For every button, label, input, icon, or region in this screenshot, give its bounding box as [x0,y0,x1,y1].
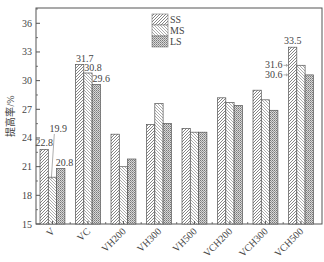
legend-item-ms: MS [152,25,184,36]
legend-label: MS [170,25,184,36]
bar-ss-v [40,150,48,225]
value-label: 19.9 [50,123,68,134]
x-tick-label-vh300: VH300 [135,226,164,255]
bar-ms-vch300 [261,100,269,224]
value-label: 22.8 [35,137,53,148]
bar-ls-vc [92,85,100,225]
bar-ss-vch500 [289,47,297,224]
bar-group-vh300 [147,104,172,224]
bar-ls-vch500 [305,75,313,224]
value-label: 30.6 [265,69,283,80]
bar-ls-vh300 [163,124,171,224]
bar-ss-vh200 [111,134,119,224]
legend-swatch [152,14,168,25]
y-axis-label: 提高率/% [4,95,16,136]
x-tick-label-vch200: VCH200 [201,226,234,259]
legend-item-ss: SS [152,14,181,25]
y-tick-label: 27 [22,104,32,115]
y-tick-label: 36 [22,18,32,29]
y-tick-label: 24 [22,132,32,143]
x-tick-label-vh500: VH500 [170,226,199,255]
bar-group-vch300 [253,90,278,224]
legend-item-ls: LS [152,36,182,47]
y-tick-label: 21 [22,161,32,172]
value-label: 33.5 [284,35,302,46]
bar-ms-vh200 [119,167,127,224]
bar-ms-vh300 [155,104,163,224]
bar-ms-vc [84,73,92,224]
legend: SSMSLS [152,14,184,47]
bar-group-vc [76,64,101,224]
bar-ms-v [48,177,56,224]
value-label: 30.8 [84,62,102,73]
bar-ms-vch200 [226,103,234,224]
bar-group-vh500 [182,128,207,224]
legend-swatch [152,36,168,47]
bar-group-vh200 [111,134,136,224]
value-label: 20.8 [56,157,74,168]
bar-ls-vch200 [234,106,242,225]
value-label: 29.6 [93,73,111,84]
y-tick-label: 33 [22,46,32,57]
x-tick-label-v: V [44,225,57,238]
arrow-icon [284,74,288,76]
arrow-icon [284,64,288,66]
bar-ls-vh500 [199,132,207,224]
x-tick-label-vch500: VCH500 [272,226,305,259]
bar-group-vch200 [218,98,243,224]
bar-ss-vch200 [218,98,226,224]
y-tick-label: 15 [22,219,32,230]
legend-label: SS [170,14,181,25]
bar-ls-v [57,169,65,224]
bar-ss-vc [76,64,84,224]
bar-ss-vh300 [147,125,155,224]
bar-ls-vh200 [128,159,136,224]
legend-label: LS [170,36,182,47]
bar-ss-vh500 [182,128,190,224]
x-tick-label-vch300: VCH300 [237,226,270,259]
bar-ms-vch500 [297,65,305,224]
y-tick-label: 18 [22,190,32,201]
legend-swatch [152,25,168,36]
x-tick-label-vc: VC [75,225,93,243]
y-tick-label: 30 [22,75,32,86]
bar-group-vch500 [289,47,314,224]
x-tick-label-vh200: VH200 [99,226,128,255]
bar-ls-vch300 [270,110,278,224]
bar-ss-vch300 [253,90,261,224]
bar-ms-vh500 [190,132,198,224]
bar-chart: 22.819.920.831.730.829.633.531.630.6 151… [0,0,324,262]
